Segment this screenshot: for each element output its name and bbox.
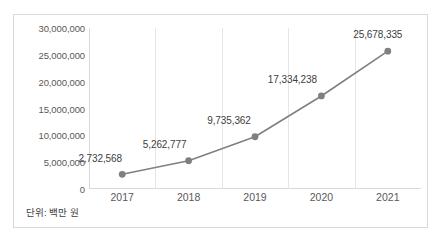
data-point-label: 2,732,568 bbox=[78, 153, 122, 164]
y-axis-tick-label: 25,000,000 bbox=[17, 49, 85, 60]
y-axis-tick-label: 0 bbox=[17, 184, 85, 195]
data-point-marker bbox=[185, 157, 192, 164]
data-point-label: 17,334,238 bbox=[268, 74, 317, 85]
x-axis-tick-label: 2020 bbox=[310, 191, 333, 203]
y-axis: 05,000,00010,000,00015,000,00020,000,000… bbox=[14, 28, 85, 189]
x-axis-tick-label: 2018 bbox=[177, 191, 200, 203]
unit-caption: 단위: 백만 원 bbox=[26, 205, 79, 219]
line-series bbox=[89, 28, 421, 189]
data-point-marker bbox=[252, 133, 259, 140]
chart-frame: 05,000,00010,000,00015,000,00020,000,000… bbox=[13, 14, 428, 228]
y-axis-tick-label: 15,000,000 bbox=[17, 103, 85, 114]
x-axis: 20172018201920202021 bbox=[89, 191, 421, 211]
x-axis-tick-label: 2019 bbox=[243, 191, 266, 203]
series-line bbox=[122, 51, 388, 174]
x-axis-tick-label: 2017 bbox=[111, 191, 134, 203]
data-point-marker bbox=[384, 48, 391, 55]
y-axis-tick-label: 20,000,000 bbox=[17, 76, 85, 87]
data-point-marker bbox=[119, 171, 126, 178]
data-point-label: 25,678,335 bbox=[353, 29, 402, 40]
data-point-label: 9,735,362 bbox=[207, 115, 251, 126]
y-axis-tick-label: 10,000,000 bbox=[17, 130, 85, 141]
data-point-label: 5,262,777 bbox=[143, 139, 187, 150]
data-point-marker bbox=[318, 93, 325, 100]
y-axis-tick-label: 5,000,000 bbox=[17, 157, 85, 168]
y-axis-tick-label: 30,000,000 bbox=[17, 23, 85, 34]
plot-area: 2,732,5685,262,7779,735,36217,334,23825,… bbox=[89, 28, 421, 189]
x-axis-tick-label: 2021 bbox=[376, 191, 399, 203]
